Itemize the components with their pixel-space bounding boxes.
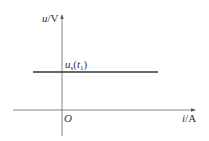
y-axis-label: u/V [42, 12, 59, 24]
x-axis-label: i/A [182, 112, 196, 124]
origin-label: O [64, 112, 72, 124]
line-label: us(t1) [65, 58, 87, 72]
u-i-graph: u/V us(t1) O i/A [0, 0, 209, 141]
